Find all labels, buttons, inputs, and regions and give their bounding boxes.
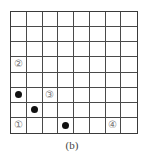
figure-caption: (b): [0, 139, 144, 151]
grid-cell: [90, 103, 106, 118]
grid-cell: [106, 42, 122, 57]
piece-dot-icon: [62, 122, 69, 129]
position-label: ①: [14, 120, 23, 130]
grid-cell: [43, 73, 59, 88]
grid-cell: [27, 88, 43, 103]
grid-cell: ③: [43, 88, 59, 103]
position-label: ②: [14, 59, 23, 69]
grid-cell: [90, 73, 106, 88]
grid-cell: [43, 57, 59, 72]
grid-cell: [11, 42, 27, 57]
grid-cell: [74, 88, 90, 103]
grid-cell: [106, 88, 122, 103]
grid-cell: [106, 12, 122, 27]
piece-dot-icon: [15, 91, 22, 98]
grid-cell: [58, 88, 74, 103]
grid-cell: [74, 103, 90, 118]
grid-cell: [106, 27, 122, 42]
grid-cell: [11, 73, 27, 88]
grid-cell: [11, 103, 27, 118]
grid-cell: [121, 118, 137, 133]
grid-cell: [58, 57, 74, 72]
grid-cell: [121, 103, 137, 118]
grid-cell: [106, 103, 122, 118]
grid-cell: [90, 88, 106, 103]
position-label: ④: [108, 120, 117, 130]
grid-cell: [121, 88, 137, 103]
grid-cell: [90, 57, 106, 72]
grid-cell: ②: [11, 57, 27, 72]
grid-cell: [121, 42, 137, 57]
position-label: ③: [45, 90, 54, 100]
grid-cell: [58, 73, 74, 88]
grid-cell: [121, 73, 137, 88]
piece-dot-icon: [31, 106, 38, 113]
grid-cell: [106, 73, 122, 88]
grid-cell: [27, 12, 43, 27]
grid-cell: [121, 27, 137, 42]
grid-cell: [43, 27, 59, 42]
grid-cell: [90, 42, 106, 57]
grid-cell: [43, 118, 59, 133]
grid-cell: [27, 57, 43, 72]
grid-cell: [27, 103, 43, 118]
grid-cell: [58, 27, 74, 42]
grid-cell: [11, 88, 27, 103]
grid-cell: [43, 42, 59, 57]
grid-cell: [58, 12, 74, 27]
grid-cell: [58, 42, 74, 57]
grid-cell: ④: [106, 118, 122, 133]
grid-cell: [11, 12, 27, 27]
grid-cell: [90, 27, 106, 42]
grid-cell: [27, 73, 43, 88]
grid-cell: [74, 27, 90, 42]
grid-cell: [27, 42, 43, 57]
grid-cell: [74, 42, 90, 57]
grid-cell: ①: [11, 118, 27, 133]
grid-cell: [43, 12, 59, 27]
grid-cell: [90, 12, 106, 27]
grid-cell: [121, 12, 137, 27]
grid-cell: [121, 57, 137, 72]
grid-cell: [106, 57, 122, 72]
grid-cell: [58, 103, 74, 118]
grid-cell: [74, 118, 90, 133]
grid-cell: [74, 73, 90, 88]
grid-cell: [90, 118, 106, 133]
grid-cell: [74, 12, 90, 27]
grid-cell: [74, 57, 90, 72]
grid-cell: [58, 118, 74, 133]
grid-board: ②③①④: [10, 11, 138, 134]
grid-cell: [11, 27, 27, 42]
grid-cell: [27, 118, 43, 133]
grid-cell: [27, 27, 43, 42]
grid-cell: [43, 103, 59, 118]
